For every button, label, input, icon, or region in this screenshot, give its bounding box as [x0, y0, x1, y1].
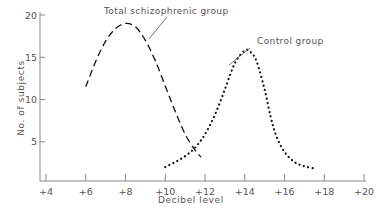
x-axis-title: Decibel level — [158, 195, 224, 205]
x-tick-label: +16 — [274, 186, 294, 197]
annotation-control: Control group — [257, 36, 324, 46]
x-tick-label: +8 — [118, 186, 132, 197]
y-tick-label: 10 — [25, 94, 37, 105]
decibel-chart: 5101520+4+6+8+10+12+14+16+18+20 Total sc… — [0, 0, 386, 213]
series-control-line — [165, 50, 316, 169]
annotation-schizophrenic: Total schizophrenic group — [103, 6, 229, 16]
y-tick-label: 20 — [25, 10, 37, 21]
x-tick-label: +20 — [354, 186, 374, 197]
x-tick-label: +14 — [235, 186, 255, 197]
annotations: Total schizophrenic group Control group — [103, 6, 324, 65]
y-tick-label: 15 — [25, 52, 37, 63]
series-schizophrenic-line — [86, 23, 201, 157]
x-tick-label: +4 — [39, 186, 53, 197]
annotation-arrow-schizophrenic — [149, 17, 167, 39]
x-tick-label: +18 — [314, 186, 334, 197]
y-axis-title: No. of subjects — [16, 60, 26, 136]
chart-svg: 5101520+4+6+8+10+12+14+16+18+20 Total sc… — [0, 0, 386, 213]
y-tick-label: 5 — [31, 136, 37, 147]
x-tick-label: +6 — [79, 186, 93, 197]
annotation-arrow-control — [229, 48, 250, 65]
